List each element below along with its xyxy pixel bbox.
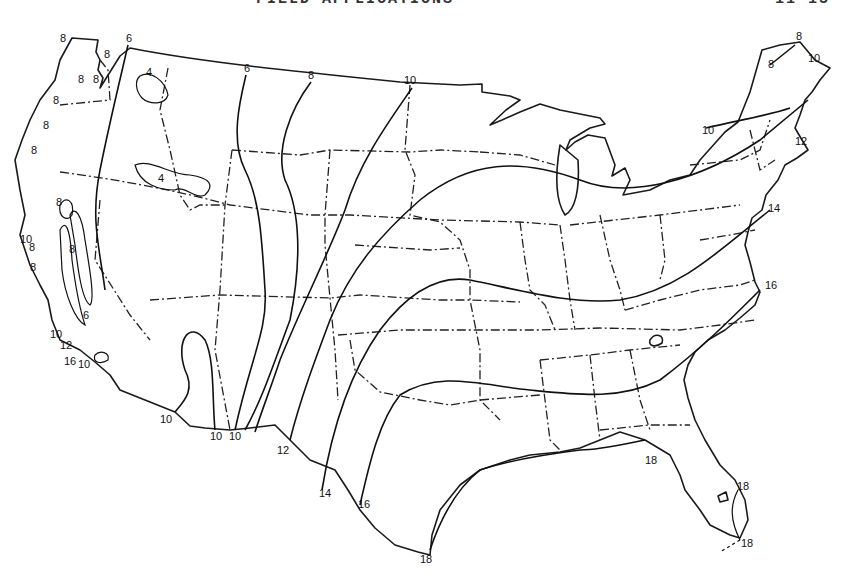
label-s-14: 14 bbox=[319, 487, 331, 499]
label-ne-8a: 8 bbox=[796, 30, 802, 42]
label-n-8: 8 bbox=[308, 69, 314, 81]
label-se-18c: 18 bbox=[737, 480, 749, 492]
label-ca-12: 12 bbox=[60, 339, 72, 351]
label-ne-14: 14 bbox=[768, 202, 780, 214]
label-se-18d: 18 bbox=[741, 537, 753, 549]
label-ca-8d: 8 bbox=[30, 261, 36, 273]
label-ca-6: 6 bbox=[83, 309, 89, 321]
label-ne-10b: 10 bbox=[702, 124, 714, 136]
label-ca-10c: 10 bbox=[78, 358, 90, 370]
label-id-4a: 4 bbox=[146, 66, 152, 78]
label-e-16: 16 bbox=[765, 279, 777, 291]
isoline-labels: 8 6 8 8 8 8 8 8 4 4 8 10 8 8 8 6 10 12 1… bbox=[20, 30, 820, 565]
label-nw-8c: 8 bbox=[78, 73, 84, 85]
florida-lake bbox=[718, 492, 728, 502]
us-isoline-map: 8 6 8 8 8 8 8 8 4 4 8 10 8 8 8 6 10 12 1… bbox=[0, 0, 855, 581]
label-sw-10c: 10 bbox=[229, 430, 241, 442]
label-ca-16: 16 bbox=[64, 355, 76, 367]
label-nw-8g: 8 bbox=[31, 144, 37, 156]
label-s-12: 12 bbox=[277, 444, 289, 456]
label-nw-8d: 8 bbox=[93, 73, 99, 85]
label-sw-10b: 10 bbox=[210, 430, 222, 442]
state-borders bbox=[60, 60, 775, 450]
lake-michigan bbox=[557, 145, 579, 215]
label-nw-8f: 8 bbox=[43, 119, 49, 131]
label-s-18a: 18 bbox=[420, 553, 432, 565]
label-ne-10a: 10 bbox=[808, 52, 820, 64]
label-s-16: 16 bbox=[358, 498, 370, 510]
label-n-10: 10 bbox=[404, 74, 416, 86]
label-ne-12: 12 bbox=[795, 135, 807, 147]
label-ca-8c: 8 bbox=[69, 243, 75, 255]
label-nw-8b: 8 bbox=[104, 48, 110, 60]
label-n-6: 6 bbox=[244, 62, 250, 74]
label-nw-8e: 8 bbox=[53, 94, 59, 106]
label-se-18b: 18 bbox=[645, 454, 657, 466]
label-nw-8a: 8 bbox=[60, 32, 66, 44]
us-outline bbox=[15, 38, 830, 555]
lake-shore-feature bbox=[650, 335, 663, 346]
label-ne-8b: 8 bbox=[768, 58, 774, 70]
label-id-4b: 4 bbox=[158, 172, 164, 184]
label-ca-8b: 8 bbox=[29, 241, 35, 253]
label-ca-8a: 8 bbox=[56, 196, 62, 208]
label-nw-6: 6 bbox=[126, 32, 132, 44]
label-sw-10a: 10 bbox=[160, 413, 172, 425]
